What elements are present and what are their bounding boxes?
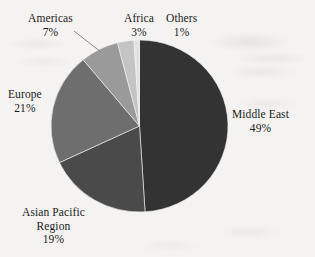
leader-line-americas [74, 31, 101, 52]
pie-label-asian-pacific: Asian Pacific Region 19% [22, 206, 85, 247]
pie-slice-group [51, 40, 228, 212]
pie-label-others: Others 1% [166, 12, 197, 39]
pie-label-europe-name: Europe [8, 88, 42, 102]
pie-label-europe: Europe 21% [8, 88, 42, 115]
pie-label-americas-value: 7% [28, 26, 73, 40]
pie-label-asian-pacific-value: 19% [22, 233, 85, 247]
pie-label-middle-east-name: Middle East [232, 108, 289, 122]
pie-label-europe-value: 21% [8, 102, 42, 116]
pie-slice-middle-east[interactable] [140, 40, 228, 212]
pie-label-asian-pacific-name-line2: Region [22, 220, 85, 234]
pie-chart-figure: Middle East 49% Asian Pacific Region 19%… [0, 0, 315, 257]
pie-label-asian-pacific-name: Asian Pacific [22, 206, 85, 220]
pie-label-africa: Africa 3% [124, 12, 154, 39]
pie-label-others-name: Others [166, 12, 197, 26]
pie-label-americas: Americas 7% [28, 12, 73, 39]
pie-label-americas-name: Americas [28, 12, 73, 26]
pie-label-africa-value: 3% [124, 26, 154, 40]
pie-label-others-value: 1% [166, 26, 197, 40]
pie-label-middle-east-value: 49% [232, 122, 289, 136]
pie-label-middle-east: Middle East 49% [232, 108, 289, 135]
pie-label-africa-name: Africa [124, 12, 154, 26]
